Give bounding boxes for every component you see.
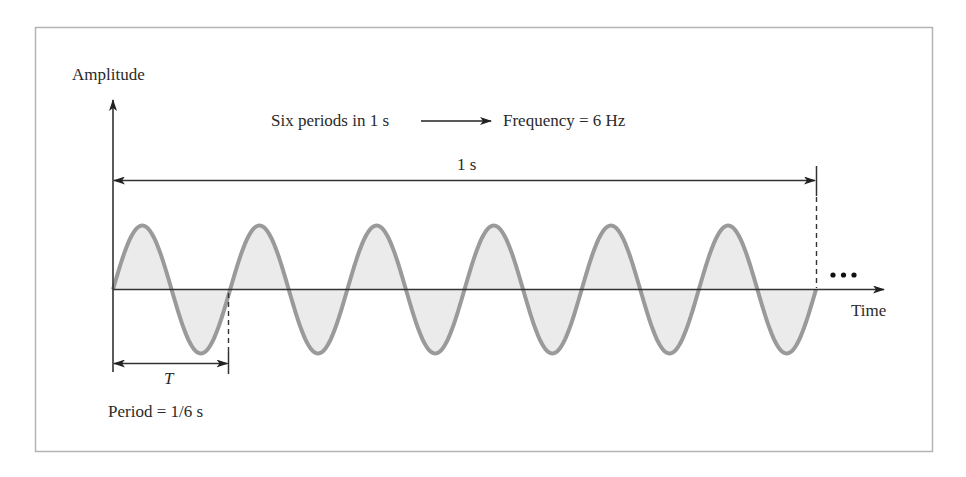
frequency-period-diagram: Amplitude Time Six periods in 1 s Freque… <box>0 0 966 477</box>
time-axis-label: Time <box>851 301 886 320</box>
period-label: Period = 1/6 s <box>108 402 203 421</box>
headline-frequency: Frequency = 6 Hz <box>503 111 626 130</box>
headline-six-periods: Six periods in 1 s <box>271 111 389 130</box>
period-symbol: T <box>164 369 175 388</box>
one-second-label: 1 s <box>457 155 476 174</box>
continuation-ellipsis <box>830 272 856 277</box>
amplitude-axis-label: Amplitude <box>72 65 145 84</box>
